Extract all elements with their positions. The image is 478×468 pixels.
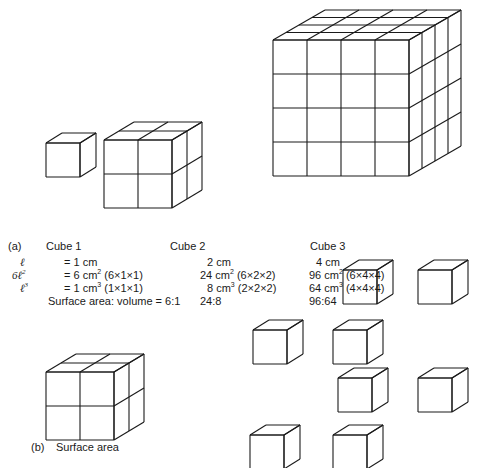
unit-cube-7 [250,425,300,468]
cube-3-volume: 64 cm3 (4×4×4) [309,282,384,295]
surface-area-cube-drawing [46,354,144,440]
symbol-area: 6ℓ2 [12,269,26,282]
cube-diagram [0,0,478,468]
cube-2-ratio: 24:8 [200,295,221,308]
cube-2-area: 24 cm2 (6×2×2) [200,269,275,282]
cube-1-volume: = 1 cm3 (1×1×1) [64,282,143,295]
unit-cube-2 [418,260,468,304]
ratio-label: Surface area: volume = 6:1 [48,295,180,308]
unit-cube-8 [333,425,383,468]
cube-3-label: Cube 3 [310,240,345,253]
cube-3-drawing [273,10,461,176]
cube-1-label: Cube 1 [46,240,81,253]
cube-3-side: 4 cm [316,256,340,269]
part-b-caption: Surface area [56,441,119,454]
symbol-volume: ℓ3 [20,282,28,295]
cube-2-volume: 8 cm3 (2×2×2) [207,282,276,295]
cube-1-side: = 1 cm [64,256,97,269]
cube-2-drawing [104,122,202,208]
symbol-side: ℓ [20,256,25,269]
part-b-label: (b) [31,441,44,454]
unit-cube-3 [253,320,303,364]
cube-3-ratio: 96:64 [309,295,337,308]
unit-cube-5 [338,368,388,412]
unit-cube-4 [333,320,383,364]
cube-1-drawing [46,133,96,177]
cube-2-side: 2 cm [207,256,231,269]
part-a-label: (a) [8,240,21,253]
cube-2-label: Cube 2 [170,240,205,253]
cube-1-area: = 6 cm2 (6×1×1) [64,269,143,282]
unit-cube-6 [418,368,468,412]
cube-3-area: 96 cm2 (6×4×4) [309,269,384,282]
